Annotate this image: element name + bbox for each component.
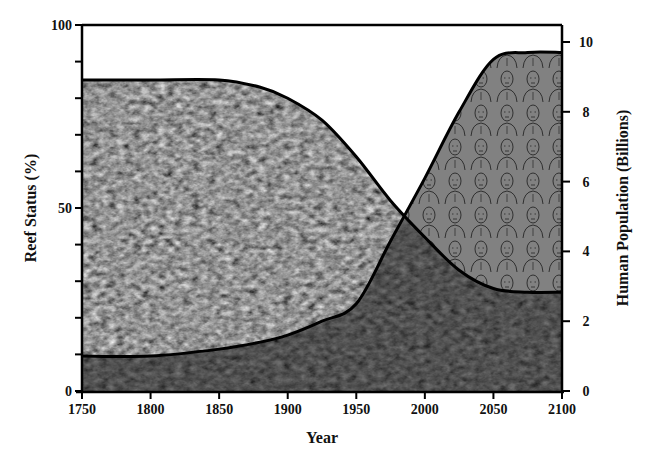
right-axis-ticks: 0246810: [562, 35, 593, 399]
tick-label: 0: [65, 384, 72, 399]
tick-label: 2000: [411, 402, 439, 417]
tick-label: 1900: [274, 402, 302, 417]
tick-label: 1950: [342, 402, 370, 417]
tick-label: 1800: [137, 402, 165, 417]
tick-label: 100: [51, 18, 72, 33]
tick-label: 6: [583, 175, 590, 190]
tick-label: 10: [579, 35, 593, 50]
chart: 050100 0246810 1750180018501900195020002…: [0, 0, 651, 463]
x-axis-ticks: 17501800185019001950200020502100: [68, 392, 576, 417]
left-axis-ticks: 050100: [51, 18, 82, 399]
tick-label: 2100: [548, 402, 576, 417]
tick-label: 2050: [479, 402, 507, 417]
right-axis-title: Human Population (Billions): [614, 110, 632, 307]
tick-label: 2: [583, 314, 590, 329]
tick-label: 0: [583, 384, 590, 399]
tick-label: 50: [58, 201, 72, 216]
tick-label: 1750: [68, 402, 96, 417]
tick-label: 4: [583, 244, 590, 259]
tick-label: 8: [583, 105, 590, 120]
tick-label: 1850: [205, 402, 233, 417]
x-axis-title: Year: [306, 429, 338, 446]
left-axis-title: Reef Status (%): [22, 154, 40, 262]
